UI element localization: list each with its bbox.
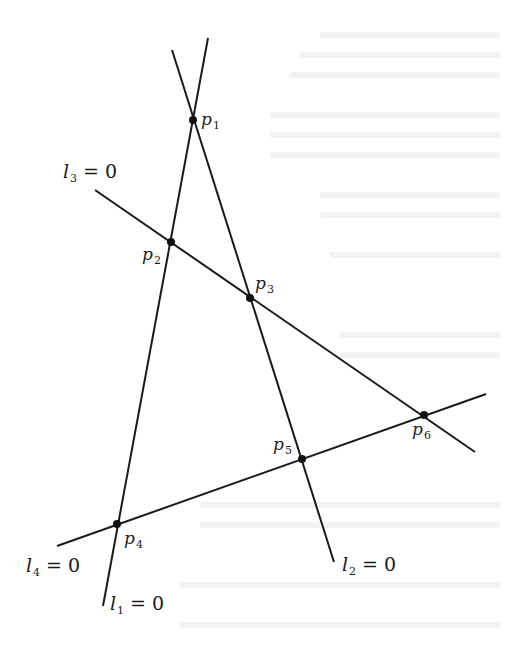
- line-label-l3: l3=0: [63, 162, 117, 181]
- point-p2: [167, 238, 175, 246]
- line-label-l2-value: 0: [384, 553, 396, 575]
- line-label-l4-sub: 4: [33, 566, 40, 579]
- point-label-p2-name: p: [142, 244, 153, 264]
- line-label-l2-sub: 2: [349, 565, 356, 578]
- point-label-p5: p5: [273, 436, 292, 453]
- diagram-canvas: [0, 0, 513, 647]
- point-p6: [420, 411, 428, 419]
- point-label-p6-name: p: [412, 419, 423, 439]
- point-label-p4-name: p: [124, 528, 135, 548]
- line-label-l2: l2=0: [342, 555, 396, 574]
- line-label-l1: l1=0: [110, 594, 164, 613]
- line-label-l1-sub: 1: [117, 604, 124, 617]
- line-label-l4: l4=0: [26, 556, 80, 575]
- line-label-l4-eq: =: [46, 554, 62, 576]
- point-label-p1: p1: [201, 111, 220, 128]
- line-label-l3-value: 0: [105, 160, 117, 182]
- line-label-l4-value: 0: [68, 554, 80, 576]
- point-label-p5-sub: 5: [285, 444, 292, 457]
- point-label-p4: p4: [124, 530, 143, 547]
- line-l3: [95, 190, 475, 452]
- point-label-p1-name: p: [201, 109, 212, 129]
- point-label-p4-sub: 4: [136, 538, 143, 551]
- line-label-l1-eq: =: [130, 592, 146, 614]
- point-label-p2-sub: 2: [154, 254, 161, 267]
- point-label-p5-name: p: [273, 434, 284, 454]
- point-label-p6: p6: [412, 421, 431, 438]
- point-p1: [189, 116, 197, 124]
- points: [113, 116, 428, 528]
- line-label-l3-sub: 3: [70, 172, 77, 185]
- point-label-p3-name: p: [255, 273, 266, 293]
- complete-quadrilateral-diagram: p1 p2 p3 p4 p5 p6 l3=0 l4=0 l1=0 l2=0: [0, 0, 513, 647]
- point-p5: [298, 455, 306, 463]
- point-label-p3-sub: 3: [267, 283, 274, 296]
- point-label-p6-sub: 6: [424, 429, 431, 442]
- point-label-p2: p2: [142, 246, 161, 263]
- lines: [57, 38, 486, 606]
- point-label-p3: p3: [255, 275, 274, 292]
- line-label-l4-name: l: [26, 554, 32, 576]
- point-p3: [246, 294, 254, 302]
- line-label-l2-name: l: [342, 553, 348, 575]
- line-l2: [172, 50, 334, 562]
- line-label-l3-eq: =: [83, 160, 99, 182]
- line-label-l1-name: l: [110, 592, 116, 614]
- point-p4: [113, 520, 121, 528]
- line-label-l2-eq: =: [362, 553, 378, 575]
- line-label-l1-value: 0: [152, 592, 164, 614]
- line-label-l3-name: l: [63, 160, 69, 182]
- point-label-p1-sub: 1: [213, 119, 220, 132]
